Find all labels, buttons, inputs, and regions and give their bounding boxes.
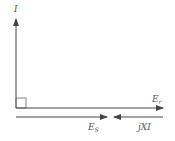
- reactance-drop-label: jXI: [136, 122, 151, 132]
- stator-emf-label: ES: [87, 122, 99, 133]
- phasor-diagram: I Er ES jXI: [0, 0, 175, 141]
- current-label: I: [13, 4, 18, 14]
- right-angle-marker: [16, 98, 26, 108]
- rotor-emf-label: Er: [151, 94, 163, 105]
